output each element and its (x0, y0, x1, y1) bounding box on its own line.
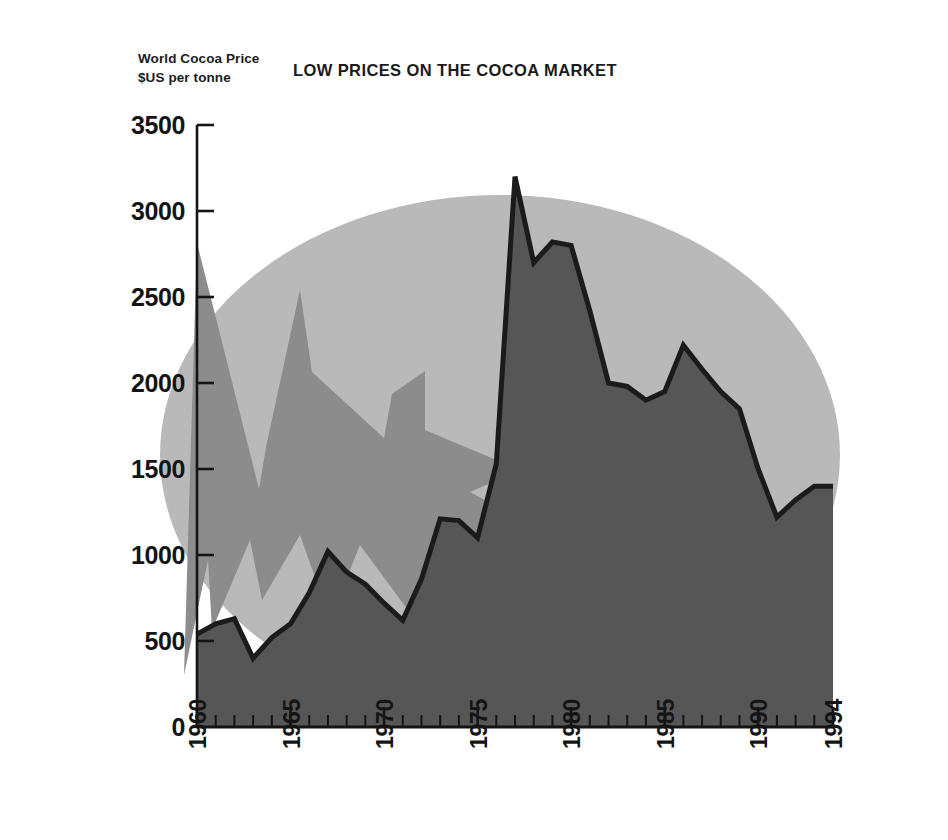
y-tick-label-1000: 1000 (131, 541, 185, 569)
chart-title: LOW PRICES ON THE COCOA MARKET (293, 61, 617, 79)
y-tick-label-2000: 2000 (131, 369, 185, 397)
x-tick-label-1990: 1990 (746, 699, 772, 749)
y-tick-label-0: 0 (171, 713, 185, 741)
x-tick-label-1965: 1965 (279, 699, 305, 749)
y-tick-label-3500: 3500 (131, 111, 185, 139)
y-tick-label-500: 500 (144, 627, 185, 655)
x-tick-label-1975: 1975 (466, 699, 492, 749)
cocoa-price-chart: 0500100015002000250030003500 19601965197… (0, 0, 948, 840)
x-tick-label-1985: 1985 (653, 699, 679, 749)
x-tick-label-1980: 1980 (559, 699, 585, 749)
y-tick-label-2500: 2500 (131, 283, 185, 311)
y-axis-title-line-2: $US per tonne (138, 70, 231, 85)
y-axis-title-line-1: World Cocoa Price (138, 51, 260, 66)
chart-figure: 0500100015002000250030003500 19601965197… (0, 0, 948, 840)
y-tick-label-3000: 3000 (131, 197, 185, 225)
x-tick-label-1994: 1994 (821, 699, 847, 749)
x-tick-label-1960: 1960 (185, 699, 211, 749)
y-tick-label-1500: 1500 (131, 455, 185, 483)
x-tick-label-1970: 1970 (372, 699, 398, 749)
